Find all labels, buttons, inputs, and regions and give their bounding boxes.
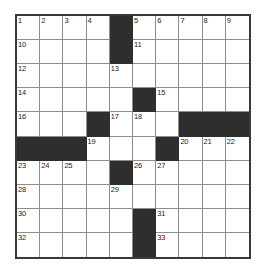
- clue-number: 28: [18, 185, 26, 194]
- clue-number: 33: [157, 233, 165, 242]
- letter-cell[interactable]: 28: [17, 185, 40, 209]
- letter-cell[interactable]: [87, 185, 110, 209]
- letter-cell[interactable]: 3: [63, 16, 86, 40]
- letter-cell[interactable]: 31: [156, 209, 179, 233]
- letter-cell[interactable]: [40, 185, 63, 209]
- letter-cell[interactable]: [63, 185, 86, 209]
- letter-cell[interactable]: [226, 233, 249, 257]
- letter-cell[interactable]: [133, 137, 156, 161]
- letter-cell[interactable]: 12: [17, 64, 40, 88]
- letter-cell[interactable]: 23: [17, 161, 40, 185]
- letter-cell[interactable]: [203, 88, 226, 112]
- letter-cell[interactable]: [179, 209, 202, 233]
- letter-cell[interactable]: [63, 209, 86, 233]
- letter-cell[interactable]: [110, 233, 133, 257]
- letter-cell[interactable]: 18: [133, 112, 156, 136]
- letter-cell[interactable]: [203, 185, 226, 209]
- letter-cell[interactable]: [179, 88, 202, 112]
- letter-cell[interactable]: 1: [17, 16, 40, 40]
- letter-cell[interactable]: [110, 88, 133, 112]
- letter-cell[interactable]: 5: [133, 16, 156, 40]
- letter-cell[interactable]: [40, 40, 63, 64]
- letter-cell[interactable]: 19: [87, 137, 110, 161]
- letter-cell[interactable]: 29: [110, 185, 133, 209]
- letter-cell[interactable]: [226, 64, 249, 88]
- clue-number: 17: [111, 112, 119, 121]
- letter-cell[interactable]: [226, 88, 249, 112]
- letter-cell[interactable]: [179, 64, 202, 88]
- letter-cell[interactable]: [179, 40, 202, 64]
- letter-cell[interactable]: [63, 64, 86, 88]
- letter-cell[interactable]: [110, 137, 133, 161]
- letter-cell[interactable]: [87, 40, 110, 64]
- letter-cell[interactable]: [156, 40, 179, 64]
- letter-cell[interactable]: [63, 112, 86, 136]
- letter-cell[interactable]: [226, 209, 249, 233]
- letter-cell[interactable]: [156, 185, 179, 209]
- letter-cell[interactable]: 9: [226, 16, 249, 40]
- letter-cell[interactable]: [40, 233, 63, 257]
- letter-cell[interactable]: 16: [17, 112, 40, 136]
- letter-cell[interactable]: [156, 112, 179, 136]
- letter-cell[interactable]: 10: [17, 40, 40, 64]
- letter-cell[interactable]: [40, 209, 63, 233]
- letter-cell[interactable]: [87, 161, 110, 185]
- letter-cell[interactable]: [203, 64, 226, 88]
- letter-cell[interactable]: 26: [133, 161, 156, 185]
- letter-cell[interactable]: [226, 161, 249, 185]
- letter-cell[interactable]: 13: [110, 64, 133, 88]
- letter-cell[interactable]: [63, 40, 86, 64]
- clue-number: 5: [134, 16, 138, 25]
- letter-cell[interactable]: [133, 185, 156, 209]
- clue-number: 18: [134, 112, 142, 121]
- clue-number: 12: [18, 64, 26, 73]
- letter-cell[interactable]: [63, 88, 86, 112]
- letter-cell[interactable]: [179, 233, 202, 257]
- clue-number: 27: [157, 161, 165, 170]
- letter-cell[interactable]: 6: [156, 16, 179, 40]
- letter-cell[interactable]: 21: [203, 137, 226, 161]
- letter-cell[interactable]: [40, 112, 63, 136]
- letter-cell[interactable]: [179, 161, 202, 185]
- letter-cell[interactable]: 7: [179, 16, 202, 40]
- block-cell: [179, 112, 202, 136]
- letter-cell[interactable]: 33: [156, 233, 179, 257]
- letter-cell[interactable]: 32: [17, 233, 40, 257]
- letter-cell[interactable]: 8: [203, 16, 226, 40]
- letter-cell[interactable]: [203, 40, 226, 64]
- block-cell: [87, 112, 110, 136]
- letter-cell[interactable]: 17: [110, 112, 133, 136]
- letter-cell[interactable]: [203, 233, 226, 257]
- letter-cell[interactable]: [203, 209, 226, 233]
- clue-number: 22: [227, 137, 235, 146]
- letter-cell[interactable]: 11: [133, 40, 156, 64]
- letter-cell[interactable]: 27: [156, 161, 179, 185]
- letter-cell[interactable]: [226, 40, 249, 64]
- letter-cell[interactable]: 2: [40, 16, 63, 40]
- letter-cell[interactable]: 25: [63, 161, 86, 185]
- letter-cell[interactable]: [156, 64, 179, 88]
- letter-cell[interactable]: 20: [179, 137, 202, 161]
- letter-cell[interactable]: 30: [17, 209, 40, 233]
- letter-cell[interactable]: 15: [156, 88, 179, 112]
- letter-cell[interactable]: [179, 185, 202, 209]
- letter-cell[interactable]: [63, 233, 86, 257]
- clue-number: 23: [18, 161, 26, 170]
- letter-cell[interactable]: 24: [40, 161, 63, 185]
- letter-cell[interactable]: [87, 64, 110, 88]
- clue-number: 2: [41, 16, 45, 25]
- block-cell: [226, 112, 249, 136]
- letter-cell[interactable]: [203, 161, 226, 185]
- letter-cell[interactable]: [87, 233, 110, 257]
- letter-cell[interactable]: 4: [87, 16, 110, 40]
- block-cell: [203, 112, 226, 136]
- letter-cell[interactable]: 22: [226, 137, 249, 161]
- letter-cell[interactable]: [40, 64, 63, 88]
- letter-cell[interactable]: [226, 185, 249, 209]
- letter-cell[interactable]: [40, 88, 63, 112]
- letter-cell[interactable]: 14: [17, 88, 40, 112]
- letter-cell[interactable]: [87, 209, 110, 233]
- letter-cell[interactable]: [87, 88, 110, 112]
- letter-cell[interactable]: [133, 64, 156, 88]
- letter-cell[interactable]: [110, 209, 133, 233]
